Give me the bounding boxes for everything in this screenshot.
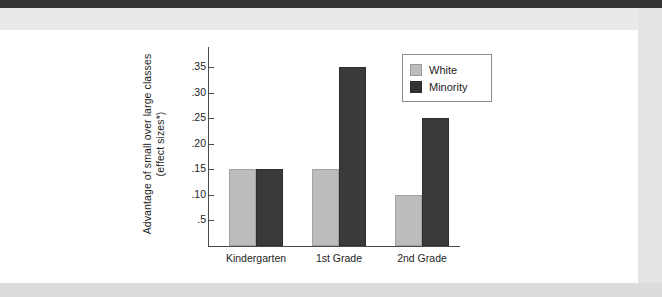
- page-bottom-gray-band: [0, 283, 662, 297]
- bar-white-2nd-grade: [395, 195, 422, 246]
- page-right-gray-band: [638, 8, 662, 283]
- x-axis-line: [208, 246, 460, 247]
- y-axis-title: Advantage of small over large classes (e…: [141, 0, 177, 40]
- legend-swatch-minority-icon: [410, 81, 422, 93]
- y-axis-tick-label: .5: [178, 213, 206, 225]
- bar-minority-2nd-grade: [422, 118, 449, 246]
- y-axis-tick-label: .25: [178, 111, 206, 123]
- legend-label-minority: Minority: [429, 81, 468, 93]
- y-axis-tick-label: .15: [178, 162, 206, 174]
- bar-minority-1st-grade: [339, 67, 366, 246]
- y-axis-tick-label: .10: [178, 188, 206, 200]
- figure-page: Advantage of small over large classes (e…: [0, 0, 662, 297]
- y-axis-tick-label: .20: [178, 137, 206, 149]
- page-top-dark-band: [0, 0, 662, 8]
- legend-item-white: White: [410, 61, 483, 78]
- bar-minority-kindergarten: [256, 169, 283, 246]
- legend: White Minority: [402, 54, 492, 102]
- y-axis-title-line-2: (effect sizes*): [154, 40, 167, 248]
- bar-white-kindergarten: [229, 169, 256, 246]
- bar-white-1st-grade: [312, 169, 339, 246]
- bar-chart: Advantage of small over large classes (e…: [0, 30, 638, 283]
- x-axis-label-2nd-grade: 2nd Grade: [367, 252, 477, 264]
- legend-label-white: White: [429, 64, 457, 76]
- y-axis-title-line-1: Advantage of small over large classes: [141, 40, 154, 248]
- y-axis-tick-label: .35: [178, 60, 206, 72]
- legend-item-minority: Minority: [410, 78, 483, 95]
- y-axis-tick-label: .30: [178, 86, 206, 98]
- page-top-gray-band: [0, 8, 662, 30]
- plot-area: .5.10.15.20.25.30.35 Kindergarten1st Gra…: [178, 42, 478, 262]
- legend-swatch-white-icon: [410, 64, 422, 76]
